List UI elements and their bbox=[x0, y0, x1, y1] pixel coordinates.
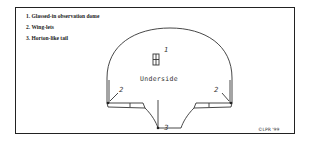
callout-winglet-left: 2 bbox=[119, 86, 123, 94]
callout-dome: 1 bbox=[164, 46, 168, 54]
callout-tail: 3 bbox=[164, 124, 168, 132]
callout-winglet-right: 2 bbox=[214, 86, 218, 94]
signature: ©LPR '99 bbox=[258, 127, 279, 132]
view-label: Underside bbox=[140, 75, 178, 83]
aircraft-underside-drawing bbox=[0, 0, 315, 141]
